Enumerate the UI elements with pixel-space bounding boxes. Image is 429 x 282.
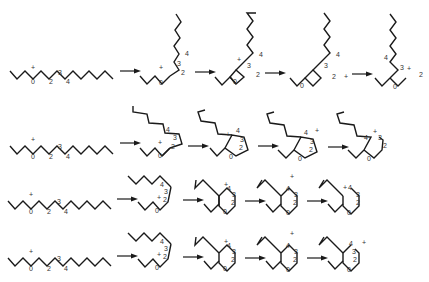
carbon-label-0: 0 bbox=[29, 208, 33, 215]
carbon-label-2: 2 bbox=[332, 73, 336, 80]
carbon-label-3: 3 bbox=[240, 136, 244, 143]
row-1-cyclobutyl-cation-2: + 0 2 3 4 bbox=[290, 13, 348, 89]
charge-plus: + bbox=[29, 248, 33, 255]
reaction-arrow bbox=[195, 70, 216, 75]
carbon-label-0: 0 bbox=[347, 209, 351, 216]
carbon-label-4: 4 bbox=[160, 238, 164, 245]
carbon-label-4: 4 bbox=[64, 208, 68, 215]
carbon-label-3: 3 bbox=[58, 69, 62, 76]
charge-plus: + bbox=[290, 173, 294, 180]
carbon-label-2: 2 bbox=[293, 199, 297, 206]
carbon-label-4: 4 bbox=[349, 240, 353, 247]
reaction-arrow bbox=[258, 144, 279, 149]
reaction-arrow bbox=[307, 256, 328, 261]
carbon-label-3: 3 bbox=[232, 191, 236, 198]
carbon-label-4: 4 bbox=[236, 127, 240, 134]
carbon-label-2: 2 bbox=[256, 71, 260, 78]
carbon-label-2: 2 bbox=[49, 153, 53, 160]
row-4-linear-chain: + 0 2 3 4 bbox=[8, 248, 111, 272]
reaction-arrow bbox=[183, 198, 204, 203]
row-4-cyclohexyl-cation-2: + 0 2 3 4 bbox=[257, 230, 298, 273]
carbon-label-3: 3 bbox=[58, 143, 62, 150]
row-3: + 0 2 3 4 + 0 2 3 4 + 0 2 3 4 bbox=[8, 173, 360, 216]
carbon-label-4: 4 bbox=[166, 126, 170, 133]
carbon-label-0: 0 bbox=[29, 265, 33, 272]
carbon-label-2: 2 bbox=[231, 256, 235, 263]
charge-plus: + bbox=[344, 73, 348, 80]
carbon-label-3: 3 bbox=[232, 248, 236, 255]
reaction-arrow bbox=[245, 199, 266, 204]
carbon-label-3: 3 bbox=[400, 64, 404, 71]
carbon-label-3: 3 bbox=[57, 255, 61, 262]
carbon-label-3: 3 bbox=[294, 191, 298, 198]
carbon-label-2: 2 bbox=[231, 199, 235, 206]
charge-plus: + bbox=[29, 191, 33, 198]
carbon-label-4: 4 bbox=[185, 50, 189, 57]
carbon-label-2: 2 bbox=[163, 253, 167, 260]
reaction-arrow bbox=[117, 254, 138, 259]
reaction-arrow bbox=[117, 197, 138, 202]
charge-plus: + bbox=[158, 139, 162, 146]
carbon-label-2: 2 bbox=[171, 143, 175, 150]
carbon-label-3: 3 bbox=[177, 60, 181, 67]
row-4: + 0 2 3 4 + 0 2 3 4 + 0 2 3 4 bbox=[8, 230, 366, 273]
reaction-arrow bbox=[307, 199, 328, 204]
row-2-cyclopentyl-cation: + 0 2 3 4 bbox=[198, 110, 248, 160]
row-1-linear-chain: + 0 2 3 4 bbox=[10, 64, 113, 85]
charge-plus: + bbox=[315, 127, 319, 134]
row-4-ring-opened: + 0 2 3 4 bbox=[319, 237, 366, 273]
carbon-label-4: 4 bbox=[384, 54, 388, 61]
carbon-label-2: 2 bbox=[239, 144, 243, 151]
row-1-cyclobutyl-cation: + 0 2 3 4 bbox=[215, 13, 263, 85]
carbon-label-4: 4 bbox=[227, 242, 231, 249]
row-4-cyclohexyl-cation: + 0 2 3 4 bbox=[195, 237, 236, 272]
carbon-label-0: 0 bbox=[286, 209, 290, 216]
carbon-label-3: 3 bbox=[294, 248, 298, 255]
carbon-label-2: 2 bbox=[293, 256, 297, 263]
charge-plus: + bbox=[31, 64, 35, 71]
carbon-label-0: 0 bbox=[159, 79, 163, 86]
carbon-label-4: 4 bbox=[259, 51, 263, 58]
row-1: + 0 2 3 4 + 0 2 3 4 + 0 2 3 bbox=[10, 13, 423, 90]
reaction-arrow bbox=[120, 69, 141, 74]
carbon-label-4: 4 bbox=[66, 78, 70, 85]
row-2-cyclopentyl-cation-2: + 0 2 3 4 bbox=[267, 112, 319, 162]
carbon-label-0: 0 bbox=[367, 155, 371, 162]
charge-plus: + bbox=[159, 64, 163, 71]
row-3-folded-chain: + 0 2 3 4 bbox=[128, 176, 171, 214]
row-3-cyclohexyl-cation: + 0 2 3 4 bbox=[195, 180, 236, 215]
charge-plus: + bbox=[290, 230, 294, 237]
carbon-label-2: 2 bbox=[419, 71, 423, 78]
row-4-folded-chain: + 0 2 3 4 bbox=[128, 233, 171, 271]
carbon-label-0: 0 bbox=[347, 266, 351, 273]
row-3-ring-opened: + 0 2 3 4 bbox=[319, 180, 360, 216]
carbon-label-2: 2 bbox=[47, 265, 51, 272]
carbon-label-4: 4 bbox=[286, 242, 290, 249]
reaction-arrow bbox=[265, 71, 286, 76]
row-1-ring-opened: + 0 2 3 4 bbox=[375, 14, 423, 90]
carbon-label-3: 3 bbox=[164, 188, 168, 195]
charge-plus: + bbox=[373, 128, 377, 135]
carbon-label-0: 0 bbox=[155, 207, 159, 214]
carbon-label-2: 2 bbox=[49, 78, 53, 85]
reaction-arrow bbox=[183, 255, 204, 260]
charge-plus: + bbox=[407, 65, 411, 72]
carbon-label-2: 2 bbox=[356, 199, 360, 206]
carbon-label-2: 2 bbox=[353, 256, 357, 263]
carbon-label-0: 0 bbox=[158, 152, 162, 159]
carbon-label-4: 4 bbox=[336, 51, 340, 58]
row-2: + 0 2 3 4 + 0 2 3 4 + 0 2 3 4 bbox=[10, 106, 387, 162]
carbon-label-0: 0 bbox=[229, 153, 233, 160]
carbon-label-2: 2 bbox=[309, 146, 313, 153]
reaction-diagram: + 0 2 3 4 + 0 2 3 4 + 0 2 3 bbox=[0, 0, 429, 282]
carbon-label-2: 2 bbox=[163, 196, 167, 203]
carbon-label-0: 0 bbox=[393, 83, 397, 90]
carbon-label-0: 0 bbox=[223, 208, 227, 215]
carbon-label-3: 3 bbox=[352, 248, 356, 255]
carbon-label-0: 0 bbox=[233, 78, 237, 85]
charge-plus: + bbox=[157, 251, 161, 258]
carbon-label-3: 3 bbox=[378, 134, 382, 141]
carbon-label-4: 4 bbox=[160, 181, 164, 188]
charge-plus: + bbox=[237, 56, 241, 63]
carbon-label-0: 0 bbox=[155, 264, 159, 271]
